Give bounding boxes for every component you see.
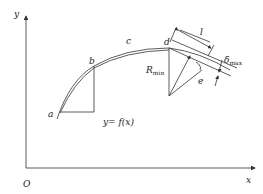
point-b-label: b — [89, 56, 95, 66]
point-a-label: a — [48, 109, 53, 119]
x-axis-label: x — [246, 175, 251, 185]
segment-length-label: l — [200, 27, 203, 37]
annotations: y= f(x) l Rmin δmax — [102, 27, 243, 127]
point-e-label: e — [198, 76, 203, 86]
radius-label: Rmin — [145, 65, 164, 76]
slope-triangle — [60, 66, 94, 112]
deviation-label: δmax — [224, 55, 243, 66]
point-d-label: d — [164, 37, 170, 47]
function-curve — [57, 48, 230, 119]
origin-label: O — [23, 179, 31, 189]
y-axis-label: y — [13, 9, 20, 19]
function-label: y= f(x) — [102, 117, 134, 127]
point-labels: a b c d e — [48, 36, 203, 119]
point-c-label: c — [126, 36, 131, 46]
axes: y x O — [13, 9, 255, 189]
curve-approximation-diagram: y x O a b c d e — [0, 0, 263, 194]
